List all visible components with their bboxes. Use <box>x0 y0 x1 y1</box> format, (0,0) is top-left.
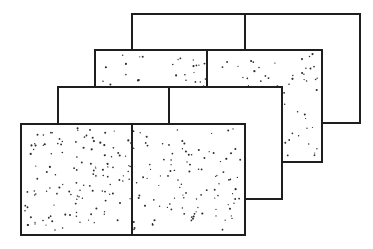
panel-stack <box>21 14 360 235</box>
layered-panels-diagram <box>0 0 373 249</box>
panel-4 <box>21 124 245 235</box>
